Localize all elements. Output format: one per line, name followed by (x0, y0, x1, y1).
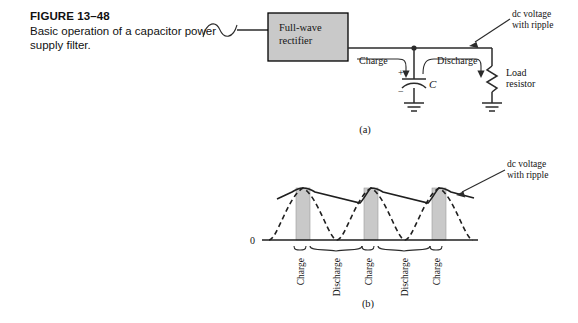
ground-symbol-load (482, 103, 502, 111)
dc-ripple-label-a-line1: dc voltage (512, 9, 551, 19)
load-resistor-label-line1: Load (506, 67, 527, 78)
dc-ripple-arrowhead-a (469, 42, 478, 48)
load-resistor-label-line2: resistor (506, 78, 536, 89)
capacitor-minus-sign: − (398, 86, 404, 97)
panel-a-circuit: Full-wave rectifier + − C (203, 9, 553, 136)
dc-ripple-label-b-line2: with ripple (507, 170, 548, 180)
capacitor-label: C (429, 78, 437, 90)
interval-label-discharge-2: Discharge (400, 258, 410, 296)
panel-a-label: (a) (359, 124, 371, 136)
panel-b-label: (b) (362, 298, 375, 310)
figure-graphics: Full-wave rectifier + − C (0, 0, 578, 323)
capacitor-plus-sign: + (398, 67, 404, 78)
dc-ripple-arrowhead-b (456, 191, 465, 197)
interval-label-charge-2: Charge (364, 258, 374, 285)
zero-axis-label: 0 (250, 235, 255, 246)
dc-ripple-annotation-b (456, 170, 505, 197)
panel-b-waveform: 0 Charge Discharge Charge Discharge Char… (250, 159, 548, 310)
charge-band-1 (296, 188, 310, 240)
interval-label-charge-1: Charge (296, 258, 306, 285)
figure-root: FIGURE 13–48 Basic operation of a capaci… (0, 0, 578, 323)
dc-ripple-label-b-line1: dc voltage (507, 159, 546, 169)
rectifier-label-line1: Full-wave (279, 22, 322, 33)
load-resistor-symbol (487, 66, 497, 92)
interval-label-charge-3: Charge (432, 258, 442, 285)
discharge-arrowhead (477, 71, 484, 79)
capacitor-plate-negative (402, 83, 426, 88)
discharge-label: Discharge (437, 55, 478, 66)
sine-wave-source-icon (203, 24, 237, 37)
charge-label: Charge (359, 55, 388, 66)
ground-symbol-capacitor (404, 103, 424, 111)
dc-ripple-annotation-a (469, 19, 510, 48)
rectifier-label-line2: rectifier (279, 35, 313, 46)
interval-braces (294, 246, 442, 251)
interval-label-discharge-1: Discharge (332, 258, 342, 296)
dc-ripple-label-a-line2: with ripple (512, 20, 553, 30)
